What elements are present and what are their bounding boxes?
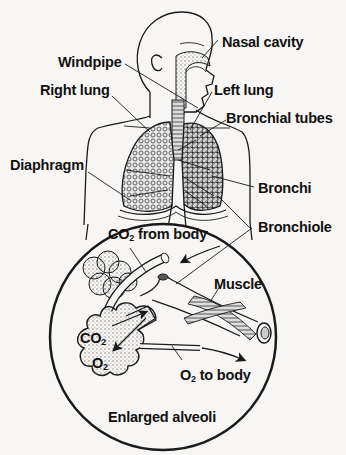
torso-edge-left: [86, 224, 88, 240]
label-muscle: Muscle: [214, 276, 262, 292]
label-bronchi: Bronchi: [258, 180, 311, 196]
label-bronchiole: Bronchiole: [258, 219, 332, 235]
label-bronchial-tubes: Bronchial tubes: [226, 110, 333, 126]
label-o2-to-body: O2 to body: [180, 367, 251, 387]
label-right-lung: Right lung: [40, 82, 110, 98]
torso-edge-right: [250, 222, 252, 240]
label-enlarged-alveoli: Enlarged alveoli: [108, 409, 216, 425]
respiratory-diagram: Nasal cavity Windpipe Left lung Right lu…: [0, 0, 346, 455]
label-windpipe: Windpipe: [58, 54, 122, 70]
label-diaphragm: Diaphragm: [10, 157, 84, 173]
label-nasal-cavity: Nasal cavity: [222, 34, 303, 50]
right-lung-shape: [122, 122, 174, 211]
label-co2: CO2: [80, 330, 106, 350]
label-left-lung: Left lung: [214, 82, 273, 98]
label-co2-from-body: CO2 from body: [108, 226, 207, 246]
o2-vessel: [140, 346, 200, 348]
label-o2: O2: [92, 355, 108, 375]
